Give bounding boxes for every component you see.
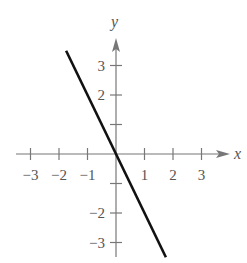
x-tick-label: −2 (51, 167, 67, 183)
x-tick-label: 2 (169, 167, 177, 183)
x-tick-label: −3 (23, 167, 39, 183)
y-tick-label: −2 (89, 205, 105, 221)
line-chart: −3−2−1123−3−223 x y (0, 0, 247, 263)
x-axis-label: x (233, 145, 241, 162)
x-tick-label: 1 (141, 167, 149, 183)
axes (16, 38, 230, 257)
y-axis-label: y (109, 13, 119, 31)
y-tick-label: 3 (98, 58, 106, 74)
y-tick-label: 2 (98, 87, 106, 103)
x-tick-label: 3 (198, 167, 206, 183)
y-tick-label: −3 (89, 235, 105, 251)
x-tick-label: −1 (80, 167, 96, 183)
